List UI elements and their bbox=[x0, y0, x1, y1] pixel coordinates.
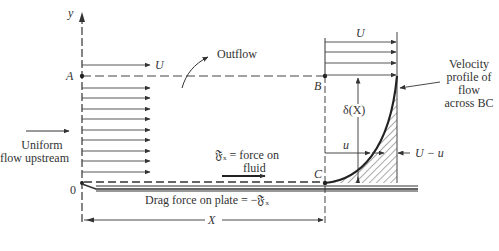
freestream-u-right-label: U bbox=[356, 27, 365, 40]
velocity-profile-label-line4: across BC bbox=[440, 97, 498, 110]
point-b-label: B bbox=[314, 80, 321, 93]
freestream-u-left-label: U bbox=[155, 59, 164, 72]
point-a-label: A bbox=[66, 70, 73, 83]
u-minus-u-label: U − u bbox=[415, 147, 444, 160]
profile-pointer-arrow bbox=[400, 82, 440, 88]
flat-plate bbox=[82, 184, 418, 191]
drag-force-label: Drag force on plate = −𝔉ₓ bbox=[145, 194, 269, 207]
outflow-arrow bbox=[182, 57, 208, 88]
force-label-line2: fluid bbox=[243, 162, 266, 175]
exit-velocity-arrows bbox=[325, 42, 396, 75]
outflow-label: Outflow bbox=[217, 48, 257, 61]
boundary-layer-diagram: y A B C 0 U U Outflow Uniform flow upstr… bbox=[0, 0, 499, 251]
point-b bbox=[323, 74, 327, 78]
y-axis-label: y bbox=[68, 7, 73, 20]
origin-label: 0 bbox=[70, 184, 76, 197]
upstream-velocity-arrows bbox=[82, 65, 150, 172]
uniform-flow-label-line2: flow upstream bbox=[0, 152, 69, 165]
point-a bbox=[80, 74, 84, 78]
x-dimension bbox=[84, 218, 323, 223]
diagram-graphics bbox=[0, 0, 499, 251]
delta-label: δ(X) bbox=[343, 104, 365, 117]
u-label: u bbox=[343, 139, 349, 152]
x-dimension-label: X bbox=[208, 214, 215, 227]
point-c-label: C bbox=[314, 168, 322, 181]
y-axis bbox=[79, 12, 85, 222]
